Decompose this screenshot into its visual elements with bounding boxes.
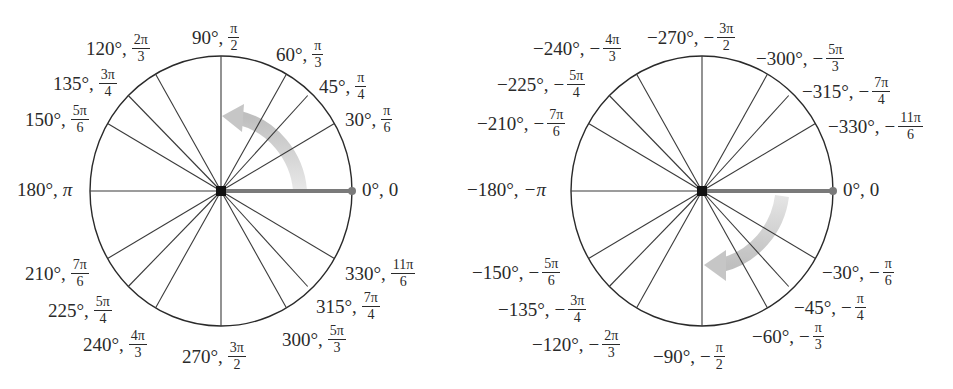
negative-sign: − bbox=[589, 335, 600, 354]
angle-label: 240°,4π3 bbox=[83, 329, 147, 360]
radian-value: 0 bbox=[389, 180, 399, 199]
radian-numerator: 3π bbox=[568, 294, 586, 310]
degree-value: −240° bbox=[533, 39, 580, 58]
separator: , bbox=[372, 110, 377, 129]
radian-numerator: 4π bbox=[129, 329, 147, 345]
radian-denominator: 3 bbox=[815, 337, 822, 352]
radian-fraction: π4 bbox=[355, 71, 366, 102]
radian-numerator: 5π bbox=[542, 257, 560, 273]
radian-denominator: 6 bbox=[400, 274, 407, 289]
separator: , bbox=[53, 180, 58, 199]
radian-numerator: 3π bbox=[228, 341, 246, 357]
radian-denominator: 4 bbox=[857, 308, 864, 323]
radian-numerator: 2π bbox=[602, 329, 620, 345]
radian-fraction: 7π4 bbox=[872, 76, 890, 107]
angle-label: 120°,2π3 bbox=[86, 33, 150, 64]
radian-fraction: π6 bbox=[883, 257, 894, 288]
radian-denominator: 6 bbox=[553, 124, 560, 139]
radian-denominator: 6 bbox=[885, 273, 892, 288]
radian-fraction: π3 bbox=[312, 39, 323, 70]
degree-value: −210° bbox=[477, 114, 524, 133]
separator: , bbox=[859, 263, 864, 282]
radian-denominator: 2 bbox=[233, 357, 240, 372]
radian-denominator: 6 bbox=[907, 127, 914, 142]
radian-numerator: 3π bbox=[99, 68, 117, 84]
separator: , bbox=[545, 300, 550, 319]
radian-denominator: 6 bbox=[383, 120, 390, 135]
negative-sign: − bbox=[555, 300, 566, 319]
radian-numerator: 7π bbox=[362, 291, 380, 307]
negative-sign: − bbox=[554, 75, 565, 94]
negative-sign: − bbox=[885, 117, 896, 136]
radian-fraction: 3π4 bbox=[568, 294, 586, 325]
radian-fraction: 2π3 bbox=[602, 329, 620, 360]
degree-value: −135° bbox=[498, 300, 545, 319]
radian-numerator: 5π bbox=[567, 69, 585, 85]
separator: , bbox=[346, 77, 351, 96]
initial-side-endpoint bbox=[348, 187, 356, 195]
radian-denominator: 3 bbox=[134, 345, 141, 360]
degree-value: 210° bbox=[25, 264, 61, 283]
clockwise-arrow-icon bbox=[704, 196, 782, 281]
radian-denominator: 4 bbox=[367, 307, 374, 322]
degree-value: 45° bbox=[319, 77, 346, 96]
degree-value: 135° bbox=[53, 74, 89, 93]
negative-sign: − bbox=[799, 327, 810, 346]
separator: , bbox=[789, 327, 794, 346]
separator: , bbox=[544, 75, 549, 94]
radian-numerator: π bbox=[883, 257, 894, 273]
separator: , bbox=[61, 264, 66, 283]
radian-fraction: 5π3 bbox=[826, 43, 844, 74]
angle-label: 180°,π bbox=[17, 180, 72, 199]
radian-fraction: 5π6 bbox=[542, 257, 560, 288]
radian-numerator: π bbox=[855, 292, 866, 308]
degree-value: −30° bbox=[822, 263, 859, 282]
angle-label: 135°,3π4 bbox=[53, 68, 117, 99]
degree-value: 240° bbox=[83, 335, 119, 354]
radian-fraction: 3π2 bbox=[717, 22, 735, 53]
radian-denominator: 6 bbox=[76, 274, 83, 289]
angle-label: 330°,11π6 bbox=[345, 258, 415, 289]
negative-sign: − bbox=[813, 49, 824, 68]
angle-label: −225°,−5π4 bbox=[497, 69, 585, 100]
radian-denominator: 2 bbox=[716, 357, 723, 372]
radian-numerator: 2π bbox=[132, 33, 150, 49]
radian-numerator: π bbox=[312, 39, 323, 55]
separator: , bbox=[514, 180, 519, 199]
radian-fraction: 7π6 bbox=[71, 258, 89, 289]
radian-value: −π bbox=[524, 180, 546, 199]
angle-label: −90°,−π2 bbox=[653, 341, 725, 372]
radian-denominator: 4 bbox=[574, 310, 581, 325]
radian-value: π bbox=[63, 180, 73, 199]
radian-denominator: 4 bbox=[357, 87, 364, 102]
negative-angle-diagram bbox=[571, 56, 837, 326]
radian-numerator: 4π bbox=[603, 33, 621, 49]
radian-numerator: π bbox=[813, 321, 824, 337]
angle-label: 225°,5π4 bbox=[48, 295, 112, 326]
radian-denominator: 3 bbox=[314, 55, 321, 70]
angle-label: −210°,−7π6 bbox=[477, 108, 565, 139]
radian-denominator: 4 bbox=[878, 92, 885, 107]
radian-numerator: 7π bbox=[872, 76, 890, 92]
radian-fraction: 5π4 bbox=[94, 295, 112, 326]
separator: , bbox=[352, 297, 357, 316]
degree-value: −45° bbox=[794, 298, 831, 317]
degree-value: −90° bbox=[653, 347, 690, 366]
radian-fraction: 11π6 bbox=[898, 111, 923, 142]
separator: , bbox=[61, 110, 66, 129]
radian-fraction: π3 bbox=[813, 321, 824, 352]
radian-fraction: π2 bbox=[714, 341, 725, 372]
angle-label: −120°,−2π3 bbox=[532, 329, 620, 360]
angle-label: 210°,7π6 bbox=[25, 258, 89, 289]
degree-value: 60° bbox=[276, 45, 303, 64]
radian-fraction: 7π6 bbox=[547, 108, 565, 139]
separator: , bbox=[694, 28, 699, 47]
negative-sign: − bbox=[529, 263, 540, 282]
angle-label: 270°,3π2 bbox=[182, 341, 246, 372]
initial-side-endpoint bbox=[829, 187, 837, 195]
angle-label: 150°,5π6 bbox=[25, 104, 89, 135]
separator: , bbox=[318, 330, 323, 349]
degree-value: 300° bbox=[282, 330, 318, 349]
separator: , bbox=[803, 49, 808, 68]
separator: , bbox=[875, 117, 880, 136]
